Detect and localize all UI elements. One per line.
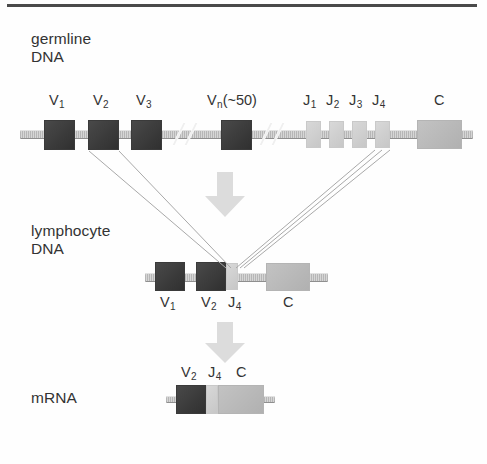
recombination-connector-lines — [0, 0, 487, 464]
gene-rearrangement-figure: germlineDNA V1 V2 V3 Vn(~50) J1 J2 J3 J4… — [0, 0, 487, 464]
